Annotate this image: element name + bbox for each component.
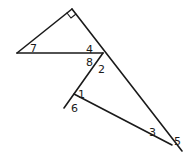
angle-label-2: 2: [98, 63, 105, 76]
angle-label-3: 3: [149, 126, 156, 139]
triangle-left-side: [17, 9, 72, 53]
angle-label-7: 7: [30, 42, 37, 55]
angle-label-6: 6: [71, 102, 78, 115]
angle-label-8: 8: [86, 56, 93, 69]
right-angle-marker: [67, 13, 76, 18]
angle-diagram: 1 2 3 4 5 6 7 8: [0, 0, 191, 161]
angle-label-5: 5: [174, 135, 181, 148]
angle-label-4: 4: [86, 43, 93, 56]
angle-label-1: 1: [78, 88, 85, 101]
long-transversal: [72, 9, 182, 151]
